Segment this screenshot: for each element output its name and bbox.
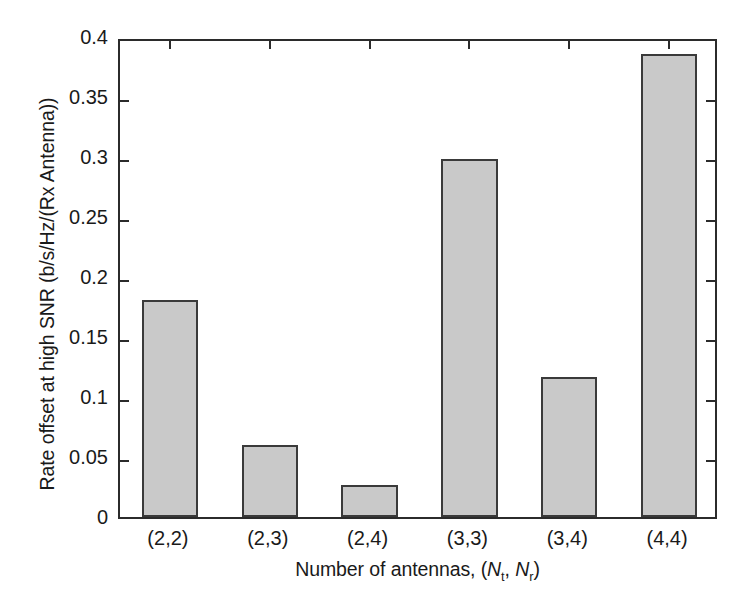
x-axis-tick-label: (4,4) bbox=[617, 527, 717, 550]
y-axis-tick-label: 0.4 bbox=[30, 26, 108, 49]
y-axis-tick bbox=[120, 160, 129, 162]
bar bbox=[541, 377, 597, 517]
bar bbox=[242, 445, 298, 517]
x-axis-tick-label: (2,4) bbox=[318, 527, 418, 550]
y-axis-tick-label: 0.1 bbox=[30, 386, 108, 409]
y-axis-tick bbox=[706, 100, 715, 102]
bar bbox=[142, 300, 198, 517]
y-axis-tick-label: 0.15 bbox=[30, 326, 108, 349]
y-axis-tick-label: 0 bbox=[30, 506, 108, 529]
y-axis-tick-label: 0.35 bbox=[30, 86, 108, 109]
x-axis-tick bbox=[668, 41, 670, 49]
y-axis-tick bbox=[706, 220, 715, 222]
y-axis-tick bbox=[706, 280, 715, 282]
x-axis-tick-label: (2,3) bbox=[218, 527, 318, 550]
y-axis-tick bbox=[706, 460, 715, 462]
plot-area bbox=[118, 39, 717, 519]
y-axis-tick-label: 0.3 bbox=[30, 146, 108, 169]
x-axis-tick-label: (3,3) bbox=[418, 527, 518, 550]
x-axis-tick bbox=[369, 41, 371, 49]
bar bbox=[341, 485, 397, 517]
x-axis-tick bbox=[269, 41, 271, 49]
y-axis-tick-label: 0.25 bbox=[30, 206, 108, 229]
y-axis-tick bbox=[706, 400, 715, 402]
x-axis-tick bbox=[568, 41, 570, 49]
x-axis-tick-label: (2,2) bbox=[118, 527, 218, 550]
x-axis-tick bbox=[169, 41, 171, 49]
bar bbox=[641, 54, 697, 517]
bar-chart-figure: Rate offset at high SNR (b/s/Hz/(Rx Ante… bbox=[0, 0, 738, 608]
x-axis-tick-label: (3,4) bbox=[517, 527, 617, 550]
y-axis-tick bbox=[120, 340, 129, 342]
y-axis-tick-label: 0.2 bbox=[30, 266, 108, 289]
y-axis-tick bbox=[706, 340, 715, 342]
y-axis-tick bbox=[120, 460, 129, 462]
x-axis-tick bbox=[468, 41, 470, 49]
y-axis-tick bbox=[120, 100, 129, 102]
bar bbox=[441, 159, 497, 517]
x-axis-title: Number of antennas, (Nt, Nr) bbox=[118, 558, 717, 584]
y-axis-tick bbox=[120, 400, 129, 402]
y-axis-tick-label: 0.05 bbox=[30, 446, 108, 469]
y-axis-tick bbox=[120, 220, 129, 222]
y-axis-tick bbox=[120, 280, 129, 282]
y-axis-tick bbox=[706, 160, 715, 162]
